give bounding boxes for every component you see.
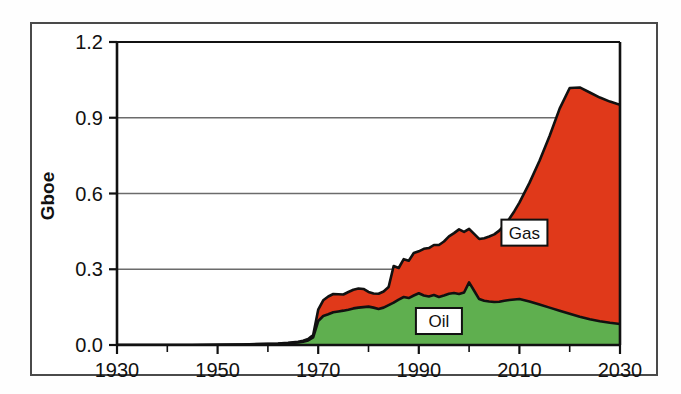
y-tick-label-0: 0.0 bbox=[75, 334, 103, 356]
stacked-area-chart: 0.00.30.60.91.2 193019501970199020102030… bbox=[0, 0, 681, 394]
y-tick-label-1.2: 1.2 bbox=[75, 31, 103, 53]
x-tick-label-1990: 1990 bbox=[397, 359, 442, 381]
y-axis-title: Gboe bbox=[37, 172, 58, 221]
x-tick-label-1970: 1970 bbox=[296, 359, 341, 381]
x-tick-label-2030: 2030 bbox=[598, 359, 643, 381]
x-axis-ticks bbox=[117, 345, 620, 354]
y-tick-label-0.6: 0.6 bbox=[75, 183, 103, 205]
y-axis-tick-labels: 0.00.30.60.91.2 bbox=[75, 31, 103, 356]
figure-container: 0.00.30.60.91.2 193019501970199020102030… bbox=[0, 0, 681, 394]
y-tick-label-0.9: 0.9 bbox=[75, 107, 103, 129]
x-tick-label-1950: 1950 bbox=[195, 359, 240, 381]
series-label-gas: Gas bbox=[501, 220, 547, 246]
series-label-text: Oil bbox=[429, 312, 450, 331]
y-tick-label-0.3: 0.3 bbox=[75, 258, 103, 280]
x-tick-label-2010: 2010 bbox=[497, 359, 542, 381]
x-axis-tick-labels: 193019501970199020102030 bbox=[95, 359, 643, 381]
x-tick-label-1930: 1930 bbox=[95, 359, 140, 381]
series-label-text: Gas bbox=[509, 224, 540, 243]
series-label-oil: Oil bbox=[416, 308, 462, 334]
